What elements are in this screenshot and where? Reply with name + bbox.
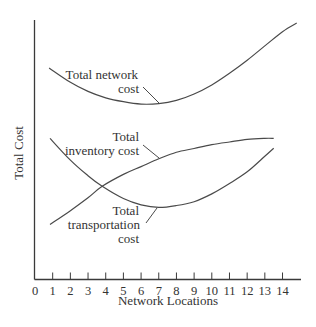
x-tick-label: 3 — [85, 284, 91, 298]
axes: 01234567891011121314 — [32, 20, 301, 298]
x-axis-title: Network Locations — [118, 293, 218, 308]
x-tick-label: 1 — [50, 284, 56, 298]
y-axis-title: Total Cost — [11, 126, 26, 180]
x-tick-label: 14 — [276, 284, 289, 298]
cost-tradeoff-chart: 01234567891011121314 Network Locations T… — [0, 0, 316, 327]
x-tick-label: 4 — [103, 284, 110, 298]
network-leader-line — [143, 87, 160, 104]
transportation-label-line3: cost — [118, 231, 139, 246]
network-label-line2: cost — [118, 81, 139, 96]
transportation-label-line1: Total — [112, 203, 139, 218]
x-tick-label: 13 — [259, 284, 272, 298]
x-tick-label: 12 — [241, 284, 254, 298]
inventory-label-line1: Total — [112, 129, 139, 144]
x-tick-label: 0 — [32, 284, 38, 298]
transportation-leader-line — [146, 208, 157, 223]
inventory-cost-label: Total inventory cost — [65, 129, 159, 158]
x-axis-ticks — [53, 273, 283, 280]
inventory-label-line2: inventory cost — [65, 143, 139, 158]
network-cost-label: Total network cost — [66, 67, 160, 104]
network-label-line1: Total network — [66, 67, 139, 82]
transportation-label-line2: transportation — [68, 217, 141, 232]
x-tick-label: 11 — [223, 284, 235, 298]
inventory-leader-line — [143, 145, 159, 158]
total-network-cost-curve — [49, 23, 297, 104]
transportation-cost-label: Total transportation cost — [68, 203, 157, 246]
x-tick-label: 2 — [67, 284, 73, 298]
